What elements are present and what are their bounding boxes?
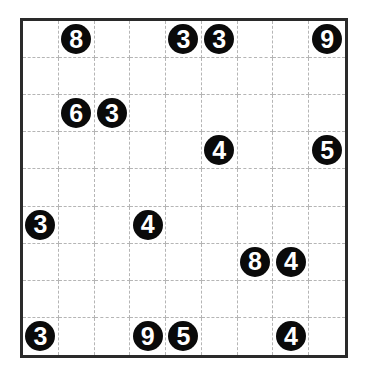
puzzle-grid: 8339634534843954 (23, 21, 345, 355)
number-clue-circle: 9 (312, 24, 342, 54)
grid-cell[interactable]: 3 (202, 21, 238, 58)
grid-cell[interactable] (166, 58, 202, 95)
number-clue-circle: 6 (61, 98, 91, 128)
number-clue-circle: 4 (276, 321, 306, 351)
grid-cell[interactable] (309, 281, 345, 318)
grid-cell[interactable] (59, 58, 95, 95)
grid-cell[interactable] (273, 21, 309, 58)
grid-cell[interactable]: 4 (130, 207, 166, 244)
grid-cell[interactable] (202, 244, 238, 281)
grid-cell[interactable]: 4 (202, 132, 238, 169)
grid-cell[interactable] (130, 169, 166, 206)
number-clue-circle: 5 (168, 321, 198, 351)
grid-cell[interactable] (23, 58, 59, 95)
grid-cell[interactable] (95, 58, 131, 95)
grid-cell[interactable] (95, 132, 131, 169)
grid-cell[interactable] (202, 95, 238, 132)
number-clue-circle: 3 (25, 321, 55, 351)
grid-cell[interactable] (166, 207, 202, 244)
grid-cell[interactable] (23, 132, 59, 169)
grid-cell[interactable] (130, 244, 166, 281)
grid-cell[interactable] (202, 58, 238, 95)
grid-cell[interactable] (166, 169, 202, 206)
grid-cell[interactable] (273, 207, 309, 244)
grid-cell[interactable]: 9 (130, 318, 166, 355)
grid-cell[interactable]: 9 (309, 21, 345, 58)
grid-cell[interactable] (238, 281, 274, 318)
grid-cell[interactable] (166, 132, 202, 169)
grid-cell[interactable] (59, 207, 95, 244)
grid-cell[interactable] (23, 244, 59, 281)
grid-cell[interactable] (130, 132, 166, 169)
grid-cell[interactable] (238, 132, 274, 169)
grid-cell[interactable]: 4 (273, 244, 309, 281)
grid-cell[interactable] (273, 95, 309, 132)
number-clue-circle: 9 (133, 321, 163, 351)
grid-cell[interactable] (59, 244, 95, 281)
grid-cell[interactable] (202, 207, 238, 244)
number-clue-circle: 5 (312, 135, 342, 165)
grid-cell[interactable] (238, 21, 274, 58)
grid-cell[interactable] (95, 21, 131, 58)
grid-cell[interactable] (238, 95, 274, 132)
grid-cell[interactable] (309, 244, 345, 281)
number-clue-circle: 3 (97, 98, 127, 128)
grid-cell[interactable] (309, 318, 345, 355)
grid-cell[interactable] (238, 207, 274, 244)
grid-cell[interactable]: 8 (59, 21, 95, 58)
grid-cell[interactable] (202, 318, 238, 355)
grid-cell[interactable] (59, 318, 95, 355)
number-clue-circle: 4 (276, 247, 306, 277)
grid-cell[interactable] (238, 58, 274, 95)
number-clue-circle: 8 (240, 247, 270, 277)
grid-cell[interactable] (273, 58, 309, 95)
number-clue-circle: 3 (25, 210, 55, 240)
puzzle-board: 8339634534843954 (20, 18, 348, 358)
grid-cell[interactable] (166, 281, 202, 318)
grid-cell[interactable]: 3 (23, 207, 59, 244)
grid-cell[interactable] (309, 95, 345, 132)
grid-cell[interactable] (130, 21, 166, 58)
number-clue-circle: 8 (61, 24, 91, 54)
grid-cell[interactable] (238, 169, 274, 206)
grid-cell[interactable] (130, 281, 166, 318)
grid-cell[interactable] (273, 169, 309, 206)
grid-cell[interactable]: 3 (166, 21, 202, 58)
grid-cell[interactable] (130, 95, 166, 132)
grid-cell[interactable] (166, 244, 202, 281)
grid-cell[interactable] (273, 132, 309, 169)
grid-cell[interactable]: 6 (59, 95, 95, 132)
grid-cell[interactable] (95, 244, 131, 281)
grid-cell[interactable]: 3 (95, 95, 131, 132)
grid-cell[interactable] (59, 169, 95, 206)
number-clue-circle: 3 (204, 24, 234, 54)
grid-cell[interactable] (130, 58, 166, 95)
grid-cell[interactable] (95, 207, 131, 244)
grid-cell[interactable] (202, 169, 238, 206)
grid-cell[interactable] (238, 318, 274, 355)
grid-cell[interactable] (95, 281, 131, 318)
grid-cell[interactable]: 4 (273, 318, 309, 355)
number-clue-circle: 3 (168, 24, 198, 54)
grid-cell[interactable] (59, 132, 95, 169)
grid-cell[interactable] (23, 21, 59, 58)
grid-cell[interactable] (166, 95, 202, 132)
grid-cell[interactable]: 8 (238, 244, 274, 281)
grid-cell[interactable] (95, 169, 131, 206)
number-clue-circle: 4 (204, 135, 234, 165)
grid-cell[interactable] (59, 281, 95, 318)
grid-cell[interactable] (23, 95, 59, 132)
grid-cell[interactable] (273, 281, 309, 318)
grid-cell[interactable] (309, 169, 345, 206)
grid-cell[interactable] (23, 281, 59, 318)
grid-cell[interactable]: 5 (166, 318, 202, 355)
grid-cell[interactable]: 5 (309, 132, 345, 169)
grid-cell[interactable] (309, 58, 345, 95)
number-clue-circle: 4 (133, 210, 163, 240)
grid-cell[interactable] (23, 169, 59, 206)
grid-cell[interactable] (309, 207, 345, 244)
grid-cell[interactable]: 3 (23, 318, 59, 355)
grid-cell[interactable] (95, 318, 131, 355)
grid-cell[interactable] (202, 281, 238, 318)
